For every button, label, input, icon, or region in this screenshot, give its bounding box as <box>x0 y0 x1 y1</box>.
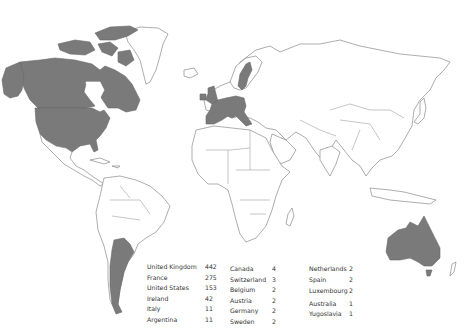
legend-row: Argentina11 <box>147 315 217 326</box>
legend-row: Spain2 <box>309 275 353 286</box>
ireland <box>200 94 206 100</box>
legend-row: Luxembourg2 <box>309 286 353 297</box>
caribbean <box>90 158 120 168</box>
alaska <box>2 62 24 98</box>
legend-row: Netherlands2 <box>309 264 353 275</box>
madagascar <box>286 208 294 226</box>
legend-row: Sweden2 <box>230 317 276 328</box>
legend-row: United Kingdom442 <box>147 262 217 273</box>
southeast-asia-islands <box>370 188 436 204</box>
legend-row: Belgium2 <box>230 285 276 296</box>
australia <box>386 216 440 266</box>
tasmania <box>426 270 432 276</box>
legend-row: Switzerland3 <box>230 275 276 286</box>
legend-row: Austria2 <box>230 296 276 307</box>
legend-row: Germany2 <box>230 306 276 317</box>
legend-row: Australia1 <box>309 299 353 310</box>
legend-row: France275 <box>147 273 217 284</box>
legend-row: Canada4 <box>230 264 276 275</box>
legend-row: Yugoslavia1 <box>309 309 353 320</box>
legend-column-3: Netherlands2 Spain2 Luxembourg2 Australi… <box>309 264 353 320</box>
iceland <box>184 68 198 78</box>
argentina <box>110 238 134 314</box>
canada <box>20 58 140 112</box>
legend-row: Italy11 <box>147 304 217 315</box>
legend-column-2: Canada4 Switzerland3 Belgium2 Austria2 G… <box>230 264 276 327</box>
india <box>320 146 340 176</box>
legend-column-1: United Kingdom442 France275 United State… <box>147 262 217 325</box>
legend-row: Ireland42 <box>147 294 217 305</box>
legend-row: United States153 <box>147 283 217 294</box>
new-zealand <box>450 262 456 276</box>
